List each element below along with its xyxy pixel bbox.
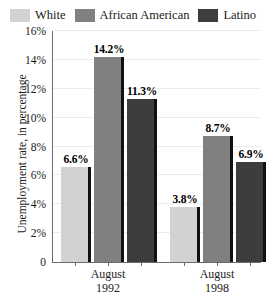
- bar-rect: [127, 99, 157, 262]
- bar[interactable]: 6.6%: [61, 167, 91, 262]
- legend-swatch-latino: [198, 9, 218, 22]
- y-axis-tick-labels: 16%14%12%10%8%6%4%2%0: [0, 31, 50, 262]
- x-axis-tick: [184, 262, 185, 266]
- bar-rect: [61, 167, 91, 262]
- bar[interactable]: 11.3%: [127, 99, 157, 262]
- bars-layer: 6.6%14.2%11.3%3.8%8.7%6.9%: [53, 31, 261, 262]
- x-axis-tick-labels: August1992August1998: [52, 267, 260, 297]
- y-axis-tick-label: 10%: [25, 112, 46, 124]
- bar-value-label: 11.3%: [127, 85, 157, 97]
- legend-swatch-african-american: [75, 9, 95, 22]
- y-axis-tick-label: 14%: [25, 54, 46, 66]
- x-axis-tick: [217, 262, 218, 266]
- bar-value-label: 8.7%: [205, 122, 230, 134]
- x-axis-tick: [75, 262, 76, 266]
- bar[interactable]: 6.9%: [236, 162, 266, 262]
- y-axis-tick-label: 6%: [31, 169, 46, 181]
- bar-group: 6.6%14.2%11.3%: [61, 31, 157, 262]
- legend-swatch-white: [10, 9, 30, 22]
- y-axis-tick-label: 8%: [31, 141, 46, 153]
- x-axis-tick: [141, 262, 142, 266]
- bar-rect: [236, 162, 266, 262]
- bar-chart: White African American Latino Unemployme…: [0, 0, 277, 297]
- bar[interactable]: 8.7%: [203, 136, 233, 262]
- bar[interactable]: 3.8%: [170, 207, 200, 262]
- bar-rect: [94, 57, 124, 262]
- bar-value-label: 3.8%: [172, 193, 197, 205]
- bar-rect: [170, 207, 200, 262]
- x-axis-tick: [108, 262, 109, 266]
- bar-group: 3.8%8.7%6.9%: [170, 31, 266, 262]
- y-axis-tick-label: 2%: [31, 227, 46, 239]
- y-axis-tick-label: 16%: [25, 25, 46, 37]
- legend-item-african-american: African American: [75, 9, 199, 22]
- bar-value-label: 6.6%: [63, 153, 88, 165]
- bar[interactable]: 14.2%: [94, 57, 124, 262]
- legend-item-white: White: [10, 9, 75, 22]
- y-axis-tick-label: 12%: [25, 83, 46, 95]
- legend-item-latino: Latino: [198, 9, 265, 22]
- x-axis-tick: [250, 262, 251, 266]
- y-axis-tick-label: 4%: [31, 198, 46, 210]
- legend-label-white: White: [35, 9, 66, 22]
- bar-value-label: 6.9%: [238, 148, 263, 160]
- x-axis-category-label: August1992: [91, 267, 126, 295]
- y-axis-tick-label: 0: [40, 256, 46, 268]
- bar-rect: [203, 136, 233, 262]
- legend-label-latino: Latino: [223, 9, 256, 22]
- chart-legend: White African American Latino: [0, 6, 277, 24]
- x-axis-category-label: August1998: [200, 267, 235, 295]
- legend-label-african-american: African American: [100, 9, 190, 22]
- plot-area: 6.6%14.2%11.3%3.8%8.7%6.9%: [52, 31, 261, 263]
- bar-value-label: 14.2%: [94, 43, 125, 55]
